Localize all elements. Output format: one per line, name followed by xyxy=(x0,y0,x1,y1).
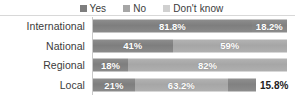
segment-value-label: 81.8% xyxy=(159,21,186,31)
bar-track: 21% 63.2% 15.8% xyxy=(93,75,295,95)
category-label: International xyxy=(0,20,89,32)
category-label: Regional xyxy=(0,59,89,71)
stacked-bar: 21% 63.2% 15.8% xyxy=(93,79,256,92)
category-label: National xyxy=(0,40,89,52)
segment-value-label: 18% xyxy=(101,61,120,71)
bar-segment-dont-know[interactable]: 15.8% xyxy=(228,79,256,92)
segment-value-label: 15.8% xyxy=(260,80,288,90)
legend-item-yes[interactable]: Yes xyxy=(80,4,107,14)
stacked-bar: 18% 82% xyxy=(93,59,287,72)
table-row: Regional 18% 82% xyxy=(0,56,295,76)
stacked-bar: 81.8% 18.2% xyxy=(93,19,287,32)
plot-area: International 81.8% 18.2% National xyxy=(0,16,295,95)
bar-segment-yes[interactable]: 81.8% xyxy=(93,19,252,32)
segment-value-label: 82% xyxy=(198,61,217,71)
chart-rows: International 81.8% 18.2% National xyxy=(0,16,295,95)
legend-square-icon xyxy=(163,5,170,12)
legend-item-label: Yes xyxy=(90,4,107,14)
segment-value-label: 63.2% xyxy=(168,80,195,90)
bar-track: 81.8% 18.2% xyxy=(93,16,295,36)
segment-value-label: 41% xyxy=(123,41,142,51)
segment-value-label: 21% xyxy=(104,80,123,90)
stacked-bar-chart: Yes No Don't know International 81.8% xyxy=(0,0,295,95)
legend-square-icon xyxy=(80,5,87,12)
category-label: Local xyxy=(0,79,89,91)
chart-legend: Yes No Don't know xyxy=(0,1,295,16)
table-row: National 41% 59% xyxy=(0,36,295,56)
legend-item-label: Don't know xyxy=(173,4,223,14)
bar-segment-no[interactable]: 59% xyxy=(173,39,287,52)
table-row: International 81.8% 18.2% xyxy=(0,16,295,36)
bar-segment-yes[interactable]: 21% xyxy=(93,79,135,92)
segment-value-label: 18.2% xyxy=(256,21,283,31)
bar-track: 18% 82% xyxy=(93,56,295,76)
bar-segment-no[interactable]: 82% xyxy=(128,59,287,72)
bar-track: 41% 59% xyxy=(93,36,295,56)
bar-segment-no[interactable]: 63.2% xyxy=(135,79,228,92)
table-row: Local 21% 63.2% 15.8% xyxy=(0,75,295,95)
bar-segment-no[interactable]: 18.2% xyxy=(252,19,287,32)
bar-segment-yes[interactable]: 41% xyxy=(93,39,173,52)
legend-item-no[interactable]: No xyxy=(123,4,146,14)
stacked-bar: 41% 59% xyxy=(93,39,287,52)
bar-segment-yes[interactable]: 18% xyxy=(93,59,128,72)
legend-item-label: No xyxy=(133,4,146,14)
segment-value-label: 59% xyxy=(220,41,239,51)
legend-square-icon xyxy=(123,5,130,12)
legend-item-dont-know[interactable]: Don't know xyxy=(163,4,223,14)
